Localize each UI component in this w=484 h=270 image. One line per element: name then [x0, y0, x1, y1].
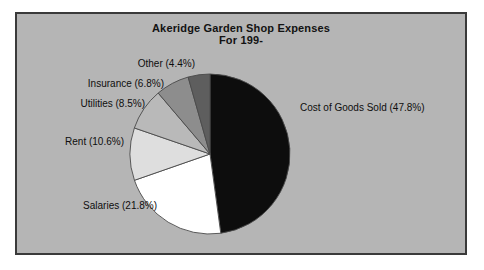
pie-label-salaries: Salaries (21.8%): [83, 200, 157, 211]
pie-chart-figure: Akeridge Garden Shop Expenses For 199- C…: [0, 0, 484, 270]
pie-label-insurance: Insurance (6.8%): [88, 78, 164, 89]
pie-label-utilities: Utilities (8.5%): [81, 98, 145, 109]
pie-chart-svg: Cost of Goods Sold (47.8%)Salaries (21.8…: [17, 14, 469, 253]
pie-label-cost-of-goods-sold: Cost of Goods Sold (47.8%): [300, 102, 425, 113]
pie-slice-cost-of-goods-sold[interactable]: [210, 74, 290, 233]
pie-label-rent: Rent (10.6%): [65, 136, 124, 147]
pie-label-other: Other (4.4%): [138, 58, 195, 69]
chart-panel: Akeridge Garden Shop Expenses For 199- C…: [15, 12, 467, 255]
